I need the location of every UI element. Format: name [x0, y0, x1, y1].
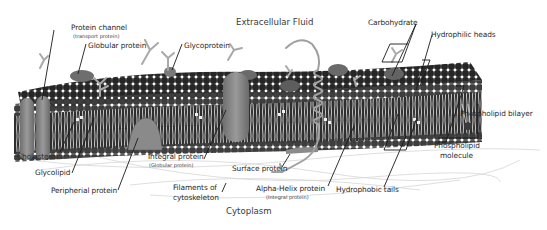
label-protein-channel: Protein channel — [71, 24, 127, 31]
label-glycoprotein: Glycoprotein — [184, 42, 230, 49]
glycoprotein — [164, 67, 176, 77]
label-filaments-line2: cytoskeleton — [173, 194, 219, 201]
label-hydrophobic-tails: Hydrophobic tails — [336, 186, 399, 193]
label-glycolipid: Glycolipid — [35, 169, 70, 176]
integral-protein — [223, 72, 249, 142]
label-cholesterol: Cholesterol — [17, 153, 58, 160]
label-integral-protein: Integral protein — [148, 153, 204, 160]
label-filaments-line1: Filaments of — [173, 184, 217, 191]
label-phospholipid-molecule-line1: Phospholipid — [434, 142, 480, 149]
region-extracellular-fluid: Extracellular Fluid — [236, 18, 313, 27]
region-cytoplasm: Cytoplasm — [226, 207, 272, 216]
label-phospholipid-bilayer: Phospholipid bilayer — [460, 110, 533, 117]
label-alpha-helix-protein-sub: (Integral protein) — [266, 195, 309, 200]
label-carbohydrate: Carbohydrate — [368, 19, 418, 26]
label-alpha-helix-protein: Alpha-Helix protein — [256, 185, 325, 192]
label-protein-channel-sub: (transport protein) — [73, 34, 119, 39]
label-hydrophilic-heads: Hydrophilic heads — [431, 31, 496, 38]
label-surface-protein: Surface protein — [232, 165, 287, 172]
label-integral-protein-sub: (Globular protein) — [149, 163, 193, 168]
globular-protein — [70, 70, 94, 82]
label-globular-protein: Globular protein — [88, 42, 146, 49]
label-peripheral-protein: Peripherial protein — [51, 187, 117, 194]
label-phospholipid-molecule-line2: molecule — [440, 152, 473, 159]
